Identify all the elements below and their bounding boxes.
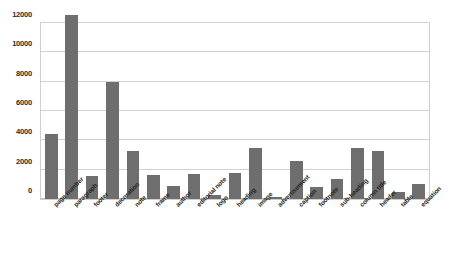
bar-equation[interactable]: [412, 184, 425, 199]
bar-slot: [208, 23, 221, 199]
bar-frame[interactable]: [147, 175, 160, 199]
bar-slot: [45, 23, 58, 199]
y-tick-label-4000: 4000: [16, 127, 32, 136]
bar-chart: 020004000600080001000012000 page numberp…: [0, 0, 452, 269]
bar-slot: [372, 23, 385, 199]
bar-slot: [86, 23, 99, 199]
bar-paragraph[interactable]: [65, 15, 78, 199]
bar-slot: [249, 23, 262, 199]
bars-layer: [41, 23, 429, 199]
bar-slot: [270, 23, 283, 199]
bar-slot: [65, 23, 78, 199]
bar-slot: [188, 23, 201, 199]
bar-slot: [290, 23, 303, 199]
bar-slot: [351, 23, 364, 199]
bar-slot: [392, 23, 405, 199]
bar-slot: [167, 23, 180, 199]
x-axis-tick-labels: page numberparagraphfooterdecorationnote…: [41, 201, 429, 267]
bar-page-number[interactable]: [45, 134, 58, 199]
bar-slot: [412, 23, 425, 199]
y-tick-label-0: 0: [28, 186, 32, 195]
y-tick-label-6000: 6000: [16, 98, 32, 107]
bar-heading[interactable]: [229, 173, 242, 199]
bar-slot: [229, 23, 242, 199]
bar-slot: [127, 23, 140, 199]
y-tick-label-12000: 12000: [12, 10, 32, 19]
bar-slot: [147, 23, 160, 199]
y-tick-label-8000: 8000: [16, 68, 32, 77]
y-tick-label-2000: 2000: [16, 156, 32, 165]
y-tick-label-10000: 10000: [12, 39, 32, 48]
bar-slot: [106, 23, 119, 199]
bar-decoration[interactable]: [106, 82, 119, 199]
bar-slot: [331, 23, 344, 199]
y-axis-tick-labels: 020004000600080001000012000: [0, 22, 36, 200]
bar-slot: [310, 23, 323, 199]
